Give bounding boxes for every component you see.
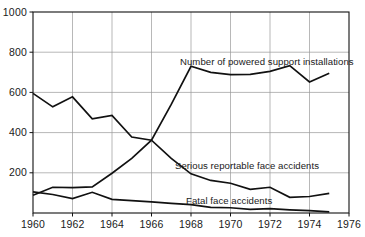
data-series-layer bbox=[33, 66, 329, 212]
y-axis-tick-label: 400 bbox=[0, 127, 27, 138]
installations-label: Number of powered support installations bbox=[180, 57, 354, 67]
y-axis-tick-label: 200 bbox=[0, 167, 27, 178]
fatal-label: Fatal face accidents bbox=[186, 196, 272, 206]
x-axis-tick-label: 1966 bbox=[132, 219, 172, 230]
x-axis-tick-label: 1964 bbox=[92, 219, 132, 230]
line-chart: 2004006008001000 19601962196419661968197… bbox=[0, 0, 365, 237]
x-axis-tick-label: 1976 bbox=[329, 219, 365, 230]
series-line-0 bbox=[33, 66, 329, 196]
y-axis-tick-label: 600 bbox=[0, 87, 27, 98]
gridlines bbox=[33, 12, 349, 213]
chart-canvas bbox=[0, 0, 365, 237]
x-axis-tick-label: 1968 bbox=[171, 219, 211, 230]
tick-marks bbox=[30, 12, 350, 217]
x-axis-tick-label: 1974 bbox=[290, 219, 330, 230]
x-axis-tick-label: 1960 bbox=[13, 219, 53, 230]
y-axis-tick-label: 800 bbox=[0, 47, 27, 58]
x-axis-tick-label: 1972 bbox=[250, 219, 290, 230]
x-axis-tick-label: 1970 bbox=[211, 219, 251, 230]
serious-label: Serious reportable face accidents bbox=[175, 161, 319, 171]
y-axis-tick-label: 1000 bbox=[0, 7, 27, 18]
x-axis-tick-label: 1962 bbox=[53, 219, 93, 230]
series-line-1 bbox=[33, 93, 329, 197]
